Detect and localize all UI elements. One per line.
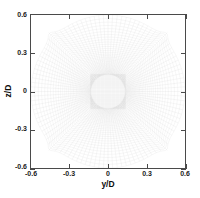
y-tick-label-4: 0.6 (17, 11, 27, 19)
y-tick-label-2: 0 (23, 87, 27, 95)
y-tick-left-3 (30, 53, 35, 54)
x-tick-label-2: 0 (106, 170, 110, 178)
y-tick-label-3: 0.3 (17, 49, 27, 57)
y-tick-label-1: -0.3 (15, 125, 27, 133)
x-tick-top-3 (147, 14, 148, 19)
x-tick-label-4: 0.6 (180, 170, 190, 178)
x-tick-bottom-4 (186, 164, 187, 169)
x-tick-label-0: -0.6 (25, 170, 37, 178)
x-tick-bottom-1 (69, 164, 70, 169)
x-tick-label-3: 0.3 (142, 170, 152, 178)
y-tick-right-3 (181, 53, 186, 54)
mesh-figure: -0.6 -0.3 0 0.3 0.6 -0.6 -0.3 0 0.3 0.6 … (0, 0, 200, 198)
y-tick-left-0 (30, 169, 35, 170)
y-tick-right-1 (181, 130, 186, 131)
plot-frame (30, 14, 186, 169)
y-tick-left-1 (30, 130, 35, 131)
y-tick-left-2 (30, 92, 35, 93)
x-tick-label-1: -0.3 (63, 170, 75, 178)
y-axis-title: z/D (3, 85, 13, 98)
y-tick-right-0 (181, 169, 186, 170)
x-tick-bottom-2 (108, 164, 109, 169)
y-tick-label-0: -0.6 (15, 163, 27, 171)
y-tick-right-2 (181, 92, 186, 93)
x-tick-top-1 (69, 14, 70, 19)
mesh-grid (31, 15, 185, 168)
x-tick-top-4 (186, 14, 187, 19)
x-axis-title: y/D (101, 179, 114, 189)
y-tick-left-4 (30, 14, 35, 15)
x-tick-bottom-3 (147, 164, 148, 169)
x-tick-top-2 (108, 14, 109, 19)
y-tick-right-4 (181, 14, 186, 15)
